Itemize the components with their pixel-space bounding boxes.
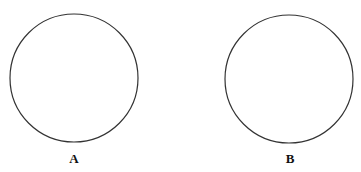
circle-b-label: B [286, 152, 295, 165]
circle-a [10, 14, 138, 142]
circle-a-label: A [69, 152, 78, 165]
diagram-canvas [0, 0, 361, 172]
circle-b [225, 15, 353, 143]
